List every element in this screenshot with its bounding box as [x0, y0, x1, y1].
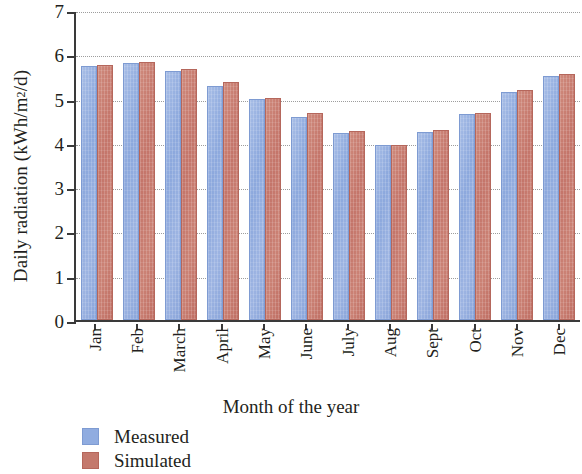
x-axis-tick-label: Aug — [382, 328, 399, 357]
bar-measured-march — [165, 71, 181, 320]
y-axis-tick-label: 1 — [34, 268, 64, 287]
bar-measured-aug — [375, 145, 391, 320]
bar-group — [118, 12, 160, 320]
y-axis-tick-label: 6 — [34, 46, 64, 65]
y-axis-tick — [67, 189, 76, 191]
bar-simulated-july — [349, 131, 365, 320]
legend-item-measured[interactable]: Measured — [82, 424, 191, 448]
x-axis-tick: Dec — [538, 324, 580, 394]
x-axis-tick-label: Oct — [466, 328, 483, 353]
legend-swatch-icon — [82, 428, 99, 445]
x-axis-tick-label: April — [213, 328, 230, 364]
x-axis-tick-label: Dec — [550, 328, 567, 355]
bar-measured-nov — [501, 92, 517, 320]
y-axis-tick-label: 5 — [34, 91, 64, 110]
bar-group — [160, 12, 202, 320]
x-axis-tick: Jan — [74, 324, 116, 394]
bar-measured-july — [333, 133, 349, 320]
bar-simulated-feb — [139, 62, 155, 320]
bar-group — [286, 12, 328, 320]
x-axis-tick-label: Feb — [129, 328, 146, 354]
bar-group — [202, 12, 244, 320]
bar-simulated-nov — [517, 90, 533, 320]
y-axis-tick — [67, 145, 76, 147]
x-axis-tick: Oct — [454, 324, 496, 394]
bar-simulated-dec — [559, 74, 575, 320]
x-axis-tick-label: March — [171, 328, 188, 372]
x-axis-tick: Feb — [116, 324, 158, 394]
bar-simulated-april — [223, 82, 239, 320]
y-axis-tick — [67, 101, 76, 103]
legend-item-simulated[interactable]: Simulated — [82, 448, 191, 472]
x-axis-tick: April — [201, 324, 243, 394]
y-axis-tick-label: 3 — [34, 179, 64, 198]
x-axis-tick-label: Jan — [87, 328, 104, 351]
y-axis-tick-label: 7 — [34, 2, 64, 21]
bar-group — [244, 12, 286, 320]
bar-measured-april — [207, 86, 223, 321]
x-axis-tick-label: June — [297, 328, 314, 359]
x-axis-title: Month of the year — [0, 396, 582, 418]
y-axis-tick-label: 4 — [34, 135, 64, 154]
bar-simulated-june — [307, 113, 323, 320]
legend-label: Measured — [114, 427, 189, 446]
bar-measured-may — [249, 99, 265, 320]
y-axis-title-tail: /d) — [10, 70, 32, 91]
bar-simulated-may — [265, 98, 281, 320]
bar-measured-oct — [459, 114, 475, 320]
bar-simulated-oct — [475, 113, 491, 320]
y-axis-tick — [67, 233, 76, 235]
bar-group — [328, 12, 370, 320]
bar-group — [370, 12, 412, 320]
legend-swatch-icon — [82, 452, 99, 469]
bar-measured-june — [291, 117, 307, 321]
x-axis-tick-label: July — [340, 328, 357, 356]
y-axis-title-main: Daily radiation (kWh/m — [10, 97, 32, 282]
plot-area: 01234567 — [74, 12, 580, 322]
x-axis-tick: Aug — [369, 324, 411, 394]
y-axis-tick — [67, 56, 76, 58]
y-axis-title: Daily radiation (kWh/m2/d) — [7, 21, 35, 331]
bar-measured-sept — [417, 132, 433, 320]
y-axis-tick — [67, 278, 76, 280]
legend-label: Simulated — [114, 451, 191, 470]
bar-group — [412, 12, 454, 320]
bar-group — [496, 12, 538, 320]
x-axis-tick-label: Nov — [508, 328, 525, 357]
x-axis-tick: Sept — [411, 324, 453, 394]
x-axis-tick: March — [158, 324, 200, 394]
y-axis-tick — [67, 12, 76, 14]
x-axis-tick-label: May — [255, 328, 272, 359]
bar-measured-feb — [123, 63, 139, 320]
legend: MeasuredSimulated — [82, 424, 191, 472]
bar-simulated-march — [181, 69, 197, 320]
bar-group — [538, 12, 580, 320]
x-axis-tick-labels: JanFebMarchAprilMayJuneJulyAugSeptOctNov… — [74, 324, 580, 394]
bar-measured-jan — [81, 66, 97, 320]
bar-group — [454, 12, 496, 320]
bar-simulated-aug — [391, 145, 407, 320]
bar-group — [76, 12, 118, 320]
bar-simulated-sept — [433, 130, 449, 320]
bar-series-container — [76, 12, 580, 320]
x-axis-tick: June — [285, 324, 327, 394]
x-axis-tick: Nov — [496, 324, 538, 394]
x-axis-tick: July — [327, 324, 369, 394]
x-axis-tick: May — [243, 324, 285, 394]
x-axis-tick-label: Sept — [424, 328, 441, 358]
bar-simulated-jan — [97, 65, 113, 320]
chart-figure: Daily radiation (kWh/m2/d) 01234567 JanF… — [0, 0, 582, 474]
bar-measured-dec — [543, 76, 559, 320]
y-axis-tick-label: 2 — [34, 223, 64, 242]
y-axis-tick-label: 0 — [34, 312, 64, 331]
